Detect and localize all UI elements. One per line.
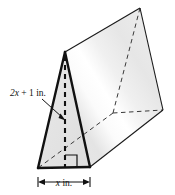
height-label-suffix: + 1 in.: [19, 88, 46, 98]
base-dimension-arrow-left-icon: [38, 179, 45, 185]
base-label: x in.: [55, 178, 72, 188]
base-label-suffix: in.: [60, 178, 72, 188]
edge-front-bottom: [38, 167, 90, 168]
geometry-figure: 2x + 1 in. x in.: [0, 0, 175, 195]
height-label: 2x + 1 in.: [10, 88, 46, 98]
triangular-prism-diagram: 2x + 1 in. x in.: [0, 0, 175, 195]
base-dimension-arrow-right-icon: [83, 179, 90, 185]
